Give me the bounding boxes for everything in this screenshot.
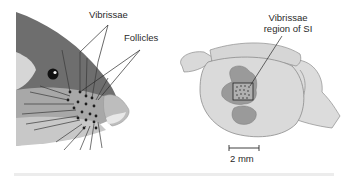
si-region-label-line2: region of SI [253, 23, 323, 34]
scale-bar-label: 2 mm [230, 153, 254, 164]
follicles-label: Follicles [124, 32, 158, 43]
vibrissae-label: Vibrissae [89, 9, 128, 20]
figure: Vibrissae Follicles Vibrissae region of … [0, 0, 345, 176]
eye [48, 69, 59, 80]
si-region-label: Vibrissae region of SI [253, 12, 323, 34]
eye-highlight [53, 71, 56, 74]
brain-illustration [181, 43, 340, 137]
si-region-label-line1: Vibrissae [253, 12, 323, 23]
scale-bar [229, 145, 259, 151]
lower-jaw [16, 117, 106, 146]
bottom-divider [14, 173, 334, 176]
